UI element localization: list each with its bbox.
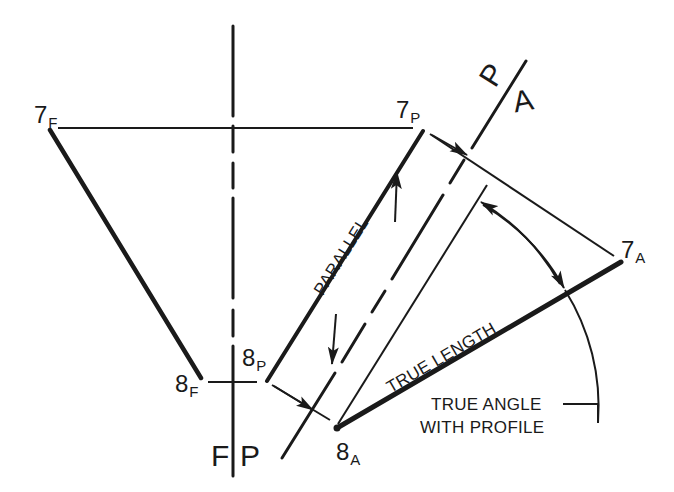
label-7f: 7F	[34, 103, 58, 130]
true-angle-arc-upper	[483, 205, 564, 288]
parallel-arrow-down	[332, 314, 336, 364]
line-7f-8f	[50, 130, 201, 378]
point-8a-dot	[334, 425, 341, 432]
label-8p: 8P	[242, 346, 266, 373]
label-8a: 8A	[336, 440, 360, 467]
arrow-8p-to-pa	[274, 386, 313, 410]
label-8f: 8F	[175, 372, 199, 399]
true-angle-label-line2: WITH PROFILE	[420, 419, 545, 436]
label-7p: 7P	[396, 98, 420, 125]
arrow-7p-to-pa	[432, 135, 467, 155]
fold-label-p: P	[240, 441, 260, 471]
label-7a: 7A	[621, 238, 645, 265]
true-angle-arrow-reverse	[481, 202, 560, 284]
true-angle-leader	[563, 404, 598, 423]
true-angle-label-line1: TRUE ANGLE	[431, 396, 542, 413]
fold-label-f: F	[211, 441, 229, 471]
parallel-arrow-up	[395, 172, 397, 222]
projection-line-7p-7a	[430, 134, 614, 256]
